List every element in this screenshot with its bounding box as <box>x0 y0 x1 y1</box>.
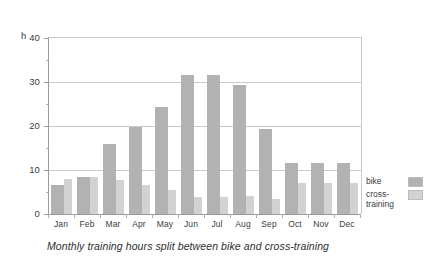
x-axis-label-jul: Jul <box>204 219 230 229</box>
x-axis-label-jun: Jun <box>178 219 204 229</box>
x-axis-tick <box>204 214 205 218</box>
x-axis-tick <box>334 214 335 218</box>
bar-group <box>259 38 280 214</box>
x-axis-tick <box>126 214 127 218</box>
bar-cross-training <box>246 196 254 214</box>
y-axis-tick-label: 10 <box>18 164 40 175</box>
plot-inner <box>49 38 361 214</box>
bar-bike <box>311 163 324 214</box>
x-axis-tick <box>178 214 179 218</box>
bar-cross-training <box>90 177 98 214</box>
y-axis-minor-tick <box>46 60 49 61</box>
bar-group <box>103 38 124 214</box>
legend-swatch <box>408 190 423 200</box>
legend-label: bike <box>366 176 408 186</box>
x-axis-label-mar: Mar <box>100 219 126 229</box>
legend-swatch <box>408 177 423 187</box>
bar-group <box>155 38 176 214</box>
bar-group <box>337 38 358 214</box>
bar-cross-training <box>220 197 228 214</box>
x-axis-tick <box>152 214 153 218</box>
bar-bike <box>181 75 194 214</box>
bar-bike <box>129 127 142 214</box>
y-axis-tick-label: 0 <box>18 208 40 219</box>
x-axis-label-feb: Feb <box>74 219 100 229</box>
x-axis-tick <box>256 214 257 218</box>
bar-group <box>207 38 228 214</box>
bar-cross-training <box>116 180 124 214</box>
legend-label: cross-training <box>366 189 408 209</box>
bar-cross-training <box>168 190 176 214</box>
x-axis-label-sep: Sep <box>256 219 282 229</box>
bar-group <box>51 38 72 214</box>
plot-area <box>48 37 362 214</box>
chart-legend: bikecross-training <box>366 176 438 211</box>
x-axis-tick <box>308 214 309 218</box>
x-axis-tick <box>100 214 101 218</box>
x-axis-label-aug: Aug <box>230 219 256 229</box>
legend-item: cross-training <box>366 189 438 209</box>
y-axis-tick-label: 40 <box>18 32 40 43</box>
bar-bike <box>77 177 90 214</box>
x-axis-tick <box>48 214 49 218</box>
bar-bike <box>285 163 298 214</box>
y-axis-tick-label: 30 <box>18 76 40 87</box>
x-axis-label-dec: Dec <box>334 219 360 229</box>
bar-bike <box>233 85 246 214</box>
bar-cross-training <box>298 183 306 214</box>
chart-figure: h 010203040 JanFebMarAprMayJunJulAugSepO… <box>0 0 439 263</box>
y-axis-tick-labels: 010203040 <box>8 0 40 263</box>
bar-bike <box>207 75 220 214</box>
bar-group <box>311 38 332 214</box>
x-axis-tick <box>74 214 75 218</box>
y-axis-tick <box>44 126 49 127</box>
bar-group <box>285 38 306 214</box>
bar-bike <box>155 107 168 214</box>
bar-bike <box>103 144 116 214</box>
x-axis-tick <box>282 214 283 218</box>
x-axis-tick <box>360 214 361 218</box>
bar-cross-training <box>194 197 202 214</box>
bar-cross-training <box>324 183 332 214</box>
y-axis-minor-tick <box>46 192 49 193</box>
bar-bike <box>259 129 272 214</box>
y-axis-tick-label: 20 <box>18 120 40 131</box>
x-axis-label-nov: Nov <box>308 219 334 229</box>
x-axis-tick <box>230 214 231 218</box>
x-axis-label-jan: Jan <box>48 219 74 229</box>
x-axis-label-may: May <box>152 219 178 229</box>
x-axis-label-oct: Oct <box>282 219 308 229</box>
y-axis-tick <box>44 82 49 83</box>
x-axis-baseline <box>49 214 361 215</box>
y-axis-minor-tick <box>46 148 49 149</box>
bar-group <box>77 38 98 214</box>
y-axis-tick <box>44 38 49 39</box>
bar-cross-training <box>272 199 280 214</box>
bar-cross-training <box>142 185 150 214</box>
y-axis-minor-tick <box>46 104 49 105</box>
bar-group <box>129 38 150 214</box>
bar-group <box>233 38 254 214</box>
legend-item: bike <box>366 176 438 187</box>
x-axis-label-apr: Apr <box>126 219 152 229</box>
y-axis-tick <box>44 170 49 171</box>
bar-bike <box>337 163 350 214</box>
bar-cross-training <box>350 183 358 214</box>
figure-caption: Monthly training hours split between bik… <box>47 240 329 252</box>
bar-cross-training <box>64 179 72 214</box>
bar-bike <box>51 185 64 214</box>
bar-group <box>181 38 202 214</box>
